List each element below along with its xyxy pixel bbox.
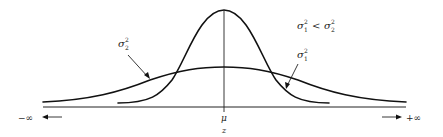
negative-infinity-marker: −∞ — [18, 113, 62, 123]
positive-infinity-marker: +∞ — [382, 113, 421, 123]
svg-text:1: 1 — [304, 26, 308, 33]
svg-text:1: 1 — [304, 55, 308, 62]
svg-text:−∞: −∞ — [18, 113, 33, 123]
svg-text:2: 2 — [331, 26, 335, 33]
normal-distribution-diagram: σ 2 2 σ 2 1 σ 2 1 < σ 2 2 −∞ +∞ μ z — [0, 0, 443, 137]
svg-text:2: 2 — [304, 18, 308, 25]
svg-text:2: 2 — [331, 18, 335, 25]
arrow-left-icon — [42, 115, 48, 120]
svg-text:2: 2 — [125, 36, 129, 43]
mean-label: μ — [221, 113, 227, 123]
wide-curve-sigma2 — [43, 67, 406, 102]
svg-text:<: < — [312, 20, 320, 31]
sigma2-arrow — [128, 55, 150, 79]
arrow-right-icon — [396, 115, 402, 120]
svg-text:2: 2 — [125, 44, 129, 51]
variable-label: z — [221, 126, 227, 135]
sigma1-label: σ 2 1 — [297, 47, 308, 62]
svg-text:2: 2 — [304, 47, 308, 54]
sigma2-label: σ 2 2 — [118, 36, 129, 51]
svg-text:+∞: +∞ — [406, 113, 421, 123]
variance-relation-label: σ 2 1 < σ 2 2 — [297, 18, 335, 33]
